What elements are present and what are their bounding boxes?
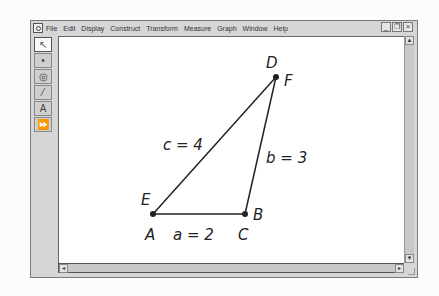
window-controls: _ ❐ × (381, 22, 413, 32)
menu-bar: File Edit Display Construct Transform Me… (31, 21, 417, 35)
minimize-button[interactable]: _ (381, 22, 391, 32)
menu-edit[interactable]: Edit (63, 25, 75, 32)
menu-construct[interactable]: Construct (110, 25, 140, 32)
scroll-right-button[interactable]: ▸ (395, 264, 404, 273)
horizontal-scrollbar[interactable]: ◂ ▸ (58, 263, 404, 273)
toolbox: ↖ • ◎ ⁄ A ⏩ (34, 37, 52, 132)
restore-button[interactable]: ❐ (392, 22, 402, 32)
resize-grip-icon[interactable] (408, 268, 415, 275)
scroll-left-button[interactable]: ◂ (59, 264, 68, 273)
menu-help[interactable]: Help (274, 25, 288, 32)
custom-tool-icon[interactable]: ⏩ (34, 117, 52, 132)
menu-graph[interactable]: Graph (217, 25, 236, 32)
scroll-up-button[interactable]: ▲ (405, 36, 414, 45)
menu-transform[interactable]: Transform (146, 25, 178, 32)
menu-file[interactable]: File (46, 25, 57, 32)
menu-display[interactable]: Display (81, 25, 104, 32)
scroll-down-button[interactable]: ▼ (405, 254, 414, 263)
app-window: File Edit Display Construct Transform Me… (30, 20, 418, 278)
vertical-scrollbar[interactable]: ▲ ▼ (404, 36, 414, 263)
compass-tool-icon[interactable]: ◎ (34, 69, 52, 84)
text-tool-icon[interactable]: A (34, 101, 52, 116)
menu-measure[interactable]: Measure (184, 25, 211, 32)
arrow-tool-icon[interactable]: ↖ (34, 37, 52, 52)
app-menu-icon[interactable] (33, 23, 43, 33)
sketch-canvas[interactable] (58, 36, 405, 263)
close-button[interactable]: × (403, 22, 413, 32)
menu-window[interactable]: Window (243, 25, 268, 32)
straightedge-tool-icon[interactable]: ⁄ (34, 85, 52, 100)
point-tool-icon[interactable]: • (34, 53, 52, 68)
